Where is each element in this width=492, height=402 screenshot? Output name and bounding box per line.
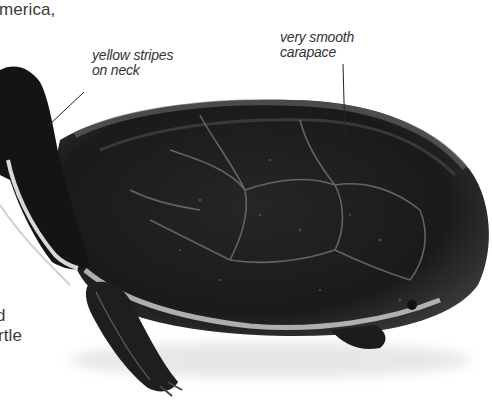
annotation-neck-line2: on neck [92,63,173,78]
annotation-carapace: very smooth carapace [280,30,354,60]
body-text-bottom-line2: rtle [0,326,22,346]
body-text-bottom-line1: d [0,306,6,326]
annotation-neck: yellow stripes on neck [92,48,173,78]
annotation-carapace-line2: carapace [280,45,354,60]
annotation-neck-line1: yellow stripes [92,48,173,63]
body-text-top: merica, [0,0,55,20]
leader-line-neck [48,92,84,126]
turtle-illustration [0,0,492,402]
book-page: merica, d rtle yellow stripes on neck ve… [0,0,492,402]
annotation-carapace-line1: very smooth [280,30,354,45]
